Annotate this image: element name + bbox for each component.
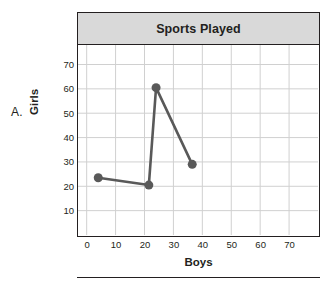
data-point-marker[interactable] bbox=[144, 181, 153, 190]
x-tick-label: 50 bbox=[220, 240, 244, 250]
data-point-marker[interactable] bbox=[94, 173, 103, 182]
y-tick-label: 70 bbox=[52, 60, 74, 70]
y-tick-label: 50 bbox=[52, 109, 74, 119]
chart-figure: Sports Played 010203040506070 Boys bbox=[77, 12, 320, 237]
x-axis-tick-labels: 010203040506070 bbox=[77, 240, 320, 254]
y-tick-label: 10 bbox=[52, 206, 74, 216]
x-tick-label: 30 bbox=[162, 240, 186, 250]
data-point-marker[interactable] bbox=[188, 160, 197, 169]
y-tick-label: 30 bbox=[52, 157, 74, 167]
x-tick-label: 0 bbox=[75, 240, 99, 250]
bottom-divider bbox=[77, 277, 320, 278]
x-axis-title: Boys bbox=[77, 256, 320, 268]
chart-title-bar: Sports Played bbox=[77, 12, 320, 45]
y-axis-tick-labels: 10203040506070 bbox=[50, 44, 74, 237]
x-tick-label: 20 bbox=[133, 240, 157, 250]
plot-area bbox=[77, 44, 320, 237]
data-point-marker[interactable] bbox=[152, 83, 161, 92]
y-tick-label: 60 bbox=[52, 84, 74, 94]
chart-title: Sports Played bbox=[156, 22, 241, 36]
x-tick-label: 70 bbox=[278, 240, 302, 250]
x-tick-label: 60 bbox=[249, 240, 273, 250]
x-tick-label: 40 bbox=[191, 240, 215, 250]
plot-canvas bbox=[78, 45, 318, 235]
y-tick-label: 20 bbox=[52, 182, 74, 192]
y-tick-label: 40 bbox=[52, 133, 74, 143]
item-letter-label: A. bbox=[11, 105, 23, 119]
y-axis-title: Girls bbox=[28, 89, 40, 115]
x-tick-label: 10 bbox=[104, 240, 128, 250]
series-line bbox=[98, 88, 192, 185]
clipped-text-sliver bbox=[70, 0, 320, 5]
